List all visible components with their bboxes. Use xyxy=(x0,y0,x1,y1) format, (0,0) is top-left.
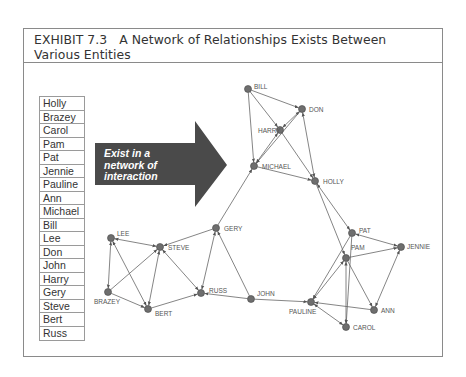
node-pauline xyxy=(308,299,315,306)
node-label-carol: CAROL xyxy=(353,324,375,331)
edge-harry-michael xyxy=(256,133,278,163)
edge-brazey-steve xyxy=(111,249,158,289)
node-label-bill: BILL xyxy=(254,83,267,90)
edge-don-holly xyxy=(303,112,315,177)
edge-bill-harry xyxy=(250,92,278,127)
node-russ xyxy=(198,290,205,297)
nodes xyxy=(105,86,405,331)
arrow-caption-line: interaction xyxy=(104,171,194,183)
edge-john-pauline xyxy=(254,299,307,302)
node-label-jennie: JENNIE xyxy=(407,243,430,250)
node-label-holly: HOLLY xyxy=(323,178,344,185)
edge-pat-pauline xyxy=(313,236,350,299)
node-bert xyxy=(145,306,152,313)
node-michael xyxy=(251,163,258,170)
node-steve xyxy=(157,244,164,251)
edge-harry-holly xyxy=(282,133,313,178)
node-label-harry: HARRY xyxy=(258,127,281,134)
edge-bill-don xyxy=(251,90,298,108)
edge-holly-pam xyxy=(316,184,344,255)
node-brazey xyxy=(105,289,112,296)
node-pam xyxy=(343,255,350,262)
node-gery xyxy=(213,225,220,232)
node-label-john: JOHN xyxy=(257,290,275,297)
edge-steve-russ xyxy=(162,250,198,291)
node-jennie xyxy=(398,244,405,251)
edge-gery-michael xyxy=(218,169,252,225)
edge-ann-pauline xyxy=(314,302,370,309)
node-label-don: DON xyxy=(309,106,323,113)
node-label-ann: ANN xyxy=(381,307,395,314)
node-ann xyxy=(371,307,378,314)
edge-lee-brazey xyxy=(108,241,111,288)
edge-gery-russ xyxy=(202,231,215,289)
edge-john-russ xyxy=(204,293,247,298)
node-label-lee: LEE xyxy=(117,230,129,237)
edge-holly-pat xyxy=(317,184,350,230)
node-label-pauline: PAULINE xyxy=(289,308,316,315)
arrow-caption-line: Exist in a xyxy=(104,148,194,160)
node-holly xyxy=(312,178,319,185)
edge-pam-ann xyxy=(348,261,373,307)
edge-pauline-carol xyxy=(314,304,343,325)
edges xyxy=(108,90,399,325)
node-label-gery: GERY xyxy=(224,225,242,232)
node-lee xyxy=(108,235,115,242)
node-pat xyxy=(349,230,356,237)
edge-steve-bert xyxy=(149,250,160,305)
network-graph xyxy=(0,0,466,377)
node-label-steve: STEVE xyxy=(168,244,189,251)
node-label-bert: BERT xyxy=(155,310,172,317)
edge-pam-pauline xyxy=(313,261,344,300)
edge-harry-don xyxy=(283,111,300,127)
edge-bill-michael xyxy=(248,92,253,162)
node-don xyxy=(299,106,306,113)
node-label-michael: MICHAEL xyxy=(262,163,291,170)
edge-jennie-ann xyxy=(375,250,399,307)
node-carol xyxy=(343,324,350,331)
node-label-pat: PAT xyxy=(359,227,371,234)
node-label-brazey: BRAZEY xyxy=(94,298,120,305)
node-label-pam: PAM xyxy=(351,244,365,251)
arrow-caption: Exist in a network of interaction xyxy=(104,148,194,183)
node-john xyxy=(248,296,255,303)
edge-lee-steve xyxy=(114,239,156,247)
node-bill xyxy=(245,86,252,93)
edge-don-michael xyxy=(256,112,299,164)
node-label-russ: RUSS xyxy=(209,287,227,294)
edge-bert-russ xyxy=(151,294,197,308)
